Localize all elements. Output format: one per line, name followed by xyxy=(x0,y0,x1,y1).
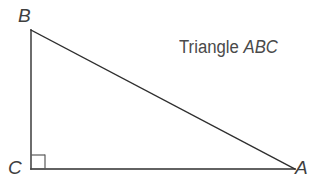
figure-caption-name: ABC xyxy=(244,37,278,57)
triangle-figure: B C A Triangle ABC xyxy=(0,0,314,195)
vertex-label-c: C xyxy=(8,158,22,177)
vertex-label-a: A xyxy=(295,158,308,177)
figure-caption: Triangle ABC xyxy=(179,37,278,57)
figure-caption-prefix: Triangle xyxy=(179,37,244,57)
triangle-drawing xyxy=(0,0,314,195)
right-angle-marker-icon xyxy=(31,155,45,169)
vertex-label-b: B xyxy=(18,6,31,25)
